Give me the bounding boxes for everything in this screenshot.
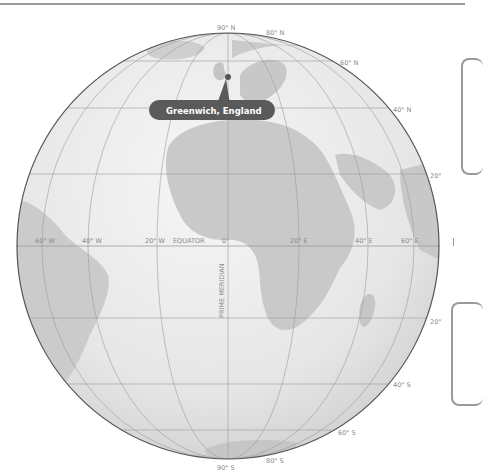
- greenwich-marker[interactable]: [225, 74, 231, 80]
- label-0: 0°: [222, 237, 229, 245]
- label-80s: 80° S: [266, 457, 284, 465]
- label-90n: 90° N: [217, 24, 236, 32]
- label-40e: 40° E: [355, 237, 373, 245]
- label-20n: 20°: [430, 172, 442, 180]
- label-20w: 20° W: [145, 237, 166, 245]
- label-60n: 60° N: [340, 59, 359, 67]
- label-40w: 40° W: [82, 237, 103, 245]
- label-80n: 80° N: [266, 29, 285, 37]
- label-60e: 60° E: [401, 237, 419, 245]
- label-prime-meridian: PRIME MERIDIAN: [218, 263, 226, 318]
- label-40s: 40° S: [393, 381, 411, 389]
- edge-tick: [453, 238, 454, 246]
- side-panel-top: [461, 58, 483, 175]
- label-60s: 60° S: [338, 429, 356, 437]
- label-90s: 90° S: [217, 464, 235, 472]
- label-20s: 20°: [430, 318, 442, 326]
- label-60w: 60° W: [35, 237, 56, 245]
- label-equator: EQUATOR: [173, 237, 205, 245]
- side-panel-bottom: [451, 302, 483, 406]
- label-40n: 40° N: [393, 106, 412, 114]
- label-20e: 20° E: [290, 237, 308, 245]
- callout-label: Greenwich, England: [166, 106, 262, 116]
